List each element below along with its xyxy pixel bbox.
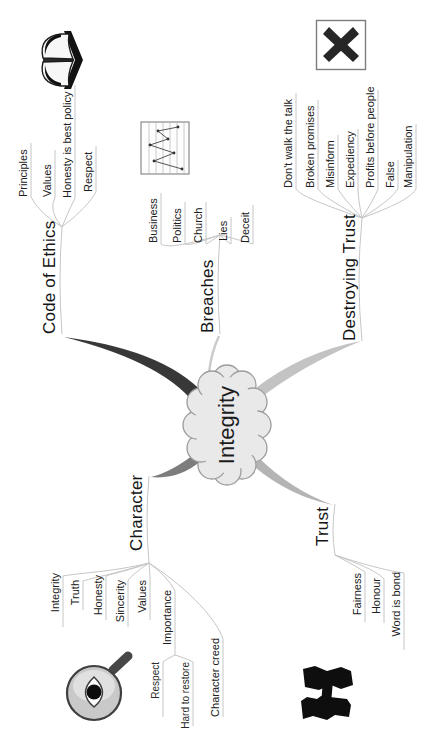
open-book-icon[interactable] bbox=[26, 29, 88, 91]
leaf-business[interactable]: Business bbox=[147, 198, 160, 243]
leaf-profits-before-people[interactable]: Profits before people bbox=[364, 86, 377, 188]
underline-trust bbox=[333, 504, 335, 555]
eye-magnifier-icon[interactable] bbox=[58, 651, 136, 731]
topic-breaches[interactable]: Breaches bbox=[198, 260, 218, 333]
leaf-hard-to-restore[interactable]: Hard to restore bbox=[180, 662, 192, 729]
leaf-integrity-character[interactable]: Integrity bbox=[49, 573, 62, 612]
leaf-deceit[interactable]: Deceit bbox=[239, 212, 252, 243]
center-topic-integrity[interactable]: Integrity bbox=[214, 367, 240, 483]
leaf-word-is-bond[interactable]: Word is bond bbox=[390, 572, 403, 637]
leaf-sincerity[interactable]: Sincerity bbox=[114, 580, 127, 622]
leaf-character-creed[interactable]: Character creed bbox=[209, 638, 222, 717]
branch-destroying-trust bbox=[253, 341, 361, 399]
leaf-broken-promises[interactable]: Broken promises bbox=[304, 105, 317, 188]
underline-breaches bbox=[218, 235, 220, 334]
leaf-truth[interactable]: Truth bbox=[69, 580, 82, 605]
leaf-respect-ethics[interactable]: Respect bbox=[82, 152, 95, 192]
handshake-icon[interactable] bbox=[297, 663, 355, 723]
branch-trust bbox=[251, 456, 333, 505]
underline-code-of-ethics bbox=[60, 227, 62, 334]
leaf-church[interactable]: Church bbox=[192, 208, 205, 243]
mindmap-canvas: Integrity Code of Ethics Breaches Destro… bbox=[0, 0, 429, 743]
topic-trust[interactable]: Trust bbox=[313, 507, 333, 546]
line-chart-icon[interactable] bbox=[140, 121, 190, 175]
leaf-politics[interactable]: Politics bbox=[171, 208, 184, 243]
topic-destroying-trust[interactable]: Destroying Trust bbox=[340, 214, 360, 341]
leaf-respect-importance[interactable]: Respect bbox=[150, 662, 162, 699]
topic-code-of-ethics[interactable]: Code of Ethics bbox=[40, 221, 60, 334]
leaf-honesty-character[interactable]: Honesty bbox=[92, 575, 105, 615]
crossed-out-x-icon[interactable] bbox=[315, 19, 367, 71]
leaf-lies[interactable]: Lies bbox=[217, 221, 230, 241]
leaf-values-character[interactable]: Values bbox=[136, 580, 149, 613]
leaf-dont-walk-the-talk[interactable]: Don't walk the talk bbox=[282, 99, 295, 188]
leaf-expediency[interactable]: Expediency bbox=[344, 131, 357, 188]
leaf-honour[interactable]: Honour bbox=[370, 578, 383, 614]
topic-character[interactable]: Character bbox=[127, 475, 147, 551]
leaf-fairness[interactable]: Fairness bbox=[351, 573, 364, 615]
mindmap-viewport: Integrity Code of Ethics Breaches Destro… bbox=[0, 0, 429, 743]
leaf-manipulation[interactable]: Manipulation bbox=[402, 126, 415, 188]
leaf-false[interactable]: False bbox=[384, 161, 397, 188]
leaf-honesty-best-policy[interactable]: Honesty is best policy bbox=[61, 92, 74, 198]
leaf-values-ethics[interactable]: Values bbox=[41, 164, 54, 197]
leaf-importance[interactable]: Importance bbox=[161, 590, 174, 645]
underline-character bbox=[147, 476, 149, 563]
leaf-principles[interactable]: Principles bbox=[17, 149, 30, 197]
leaf-misinform[interactable]: Misinform bbox=[324, 140, 337, 188]
